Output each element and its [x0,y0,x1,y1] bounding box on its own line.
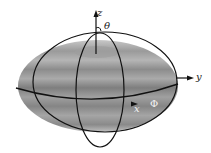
x-axis-label: x [134,104,140,114]
y-arrow-icon [187,76,194,81]
y-axis-label: y [196,72,202,82]
theta-label: θ [104,21,110,31]
theta-arc [96,27,101,31]
z-axis-label: z [97,8,102,18]
phi-label: Φ [150,99,158,109]
